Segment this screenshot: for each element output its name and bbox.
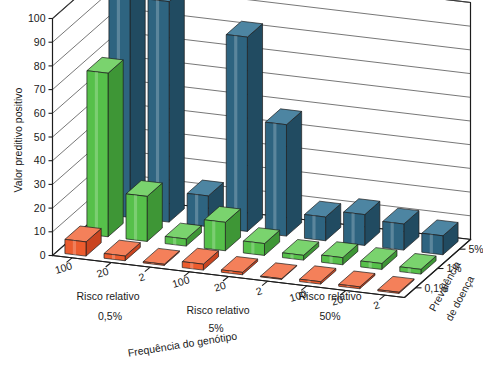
bar-highlight xyxy=(234,36,237,231)
x-tick-5 xyxy=(262,281,268,286)
x-tick-label-3: 100 xyxy=(171,273,191,290)
genotype-frequency-label-2: 50% xyxy=(319,310,340,322)
x-tick-label-4: 20 xyxy=(212,279,227,294)
y-axis-title: Valor preditivo positivo xyxy=(12,87,24,192)
x-tick-label-0: 100 xyxy=(53,259,73,276)
y-tick-label-0: 0 xyxy=(40,249,46,261)
bar-highlight xyxy=(307,280,310,283)
bar-highlight xyxy=(251,242,254,254)
bar-highlight xyxy=(430,234,433,253)
bar-f0-rr0-prev1 xyxy=(87,57,123,236)
bar-f1-rr1-prev2 xyxy=(265,109,301,236)
x-tick-2 xyxy=(145,267,151,272)
bar-highlight xyxy=(190,263,193,269)
bar-highlight xyxy=(273,123,276,235)
y-tick-label-70: 70 xyxy=(34,83,46,95)
bar-highlight xyxy=(229,271,232,274)
bar-highlight xyxy=(134,195,137,240)
y-tick-label-80: 80 xyxy=(34,60,46,72)
bar-f0-rr1-prev1 xyxy=(126,181,162,242)
chart-3d-bar-ppv: 0102030405060708090100Valor preditivo po… xyxy=(0,0,483,369)
x-tick-label-2: 2 xyxy=(137,270,146,283)
bar-highlight xyxy=(408,268,411,273)
chart-canvas: 0102030405060708090100Valor preditivo po… xyxy=(0,0,483,369)
bar-highlight xyxy=(95,72,98,236)
y-tick-label-60: 60 xyxy=(34,107,46,119)
bar-side xyxy=(108,60,123,237)
x-tick-label-1: 20 xyxy=(95,265,110,280)
bar-highlight xyxy=(173,237,176,244)
bar-highlight xyxy=(290,254,293,259)
bar-highlight xyxy=(369,262,372,268)
bar-highlight xyxy=(347,285,350,287)
y-tick-label-10: 10 xyxy=(34,225,46,237)
bar-f1-rr0-prev2 xyxy=(226,21,262,231)
y-tick-label-30: 30 xyxy=(34,178,46,190)
risk-axis-label-group-0: Risco relativo xyxy=(76,290,139,302)
x-tick-label-5: 2 xyxy=(254,284,263,297)
bar-side xyxy=(247,24,262,232)
bar-highlight xyxy=(195,194,198,225)
y-tick-label-20: 20 xyxy=(34,202,46,214)
bar-side xyxy=(169,0,184,222)
bar-highlight xyxy=(329,256,332,263)
y-tick-label-100: 100 xyxy=(28,12,46,24)
z-tick-label-2: 5% xyxy=(469,243,483,255)
x-axis-title: Frequência do genótipo xyxy=(127,329,238,358)
bar-highlight xyxy=(391,222,394,248)
genotype-frequency-label-0: 0,5% xyxy=(98,310,122,322)
x-tick-8 xyxy=(379,295,385,300)
bar-highlight xyxy=(212,221,215,250)
bar-highlight xyxy=(351,213,354,244)
risk-axis-label-group-1: Risco relativo xyxy=(186,304,249,316)
bar-side xyxy=(286,111,301,236)
y-tick-label-40: 40 xyxy=(34,154,46,166)
y-tick-label-90: 90 xyxy=(34,36,46,48)
y-tick-label-50: 50 xyxy=(34,131,46,143)
bar-highlight xyxy=(312,215,315,239)
risk-axis-label-group-2: Risco relativo xyxy=(298,290,361,302)
bar-highlight xyxy=(112,254,115,259)
bar-highlight xyxy=(73,240,76,255)
x-tick-label-8: 2 xyxy=(372,298,381,311)
